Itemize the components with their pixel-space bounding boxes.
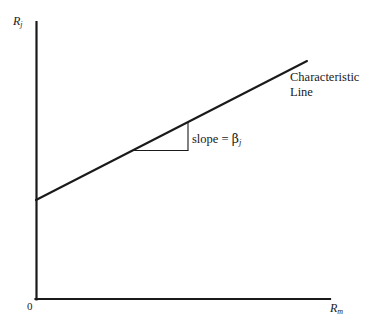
x-axis-label: Rm	[330, 301, 343, 317]
slope-annotation-text: slope =	[192, 132, 232, 146]
beta-symbol: β	[232, 131, 239, 146]
origin-label: 0	[27, 300, 33, 313]
characteristic-line-label-line2: Line	[290, 85, 359, 100]
characteristic-line-label: Characteristic Line	[290, 70, 359, 100]
y-axis-label: Rj	[13, 14, 23, 30]
beta-subscript: j	[239, 137, 241, 147]
x-axis-label-subscript: m	[337, 307, 343, 316]
characteristic-line-label-line1: Characteristic	[290, 70, 359, 85]
characteristic-line-figure: Rj Rm 0 Characteristic Line slope = βj	[0, 0, 377, 330]
figure-canvas	[0, 0, 377, 330]
y-axis-label-subscript: j	[20, 20, 22, 29]
slope-annotation: slope = βj	[192, 132, 241, 147]
characteristic-line	[36, 61, 307, 200]
